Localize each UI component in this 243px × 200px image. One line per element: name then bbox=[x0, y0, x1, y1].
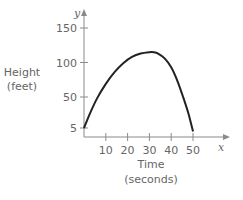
x-tick-label: 40 bbox=[164, 144, 178, 157]
x-axis-label: Time bbox=[137, 158, 165, 171]
x-axis-variable: x bbox=[218, 141, 225, 154]
x-axis-arrow bbox=[223, 134, 230, 140]
y-tick-label: 150 bbox=[56, 22, 77, 35]
y-axis-label: Height bbox=[4, 66, 41, 79]
y-tick-label: 100 bbox=[56, 57, 77, 70]
x-axis-label-units: (seconds) bbox=[124, 173, 178, 186]
y-tick-label: 5 bbox=[70, 122, 77, 135]
x-tick-label: 20 bbox=[121, 144, 135, 157]
y-axis-label-units: (feet) bbox=[7, 80, 37, 93]
y-axis-variable: y bbox=[73, 7, 81, 20]
height-curve bbox=[84, 52, 193, 132]
y-tick-label: 50 bbox=[63, 91, 77, 104]
x-tick-label: 30 bbox=[142, 144, 156, 157]
x-tick-label: 10 bbox=[99, 144, 113, 157]
y-ticks: 550100150 bbox=[56, 22, 88, 135]
x-tick-label: 50 bbox=[186, 144, 200, 157]
chart: y x Height (feet) Time (seconds) 1020304… bbox=[0, 0, 243, 200]
y-axis-arrow bbox=[81, 9, 87, 16]
